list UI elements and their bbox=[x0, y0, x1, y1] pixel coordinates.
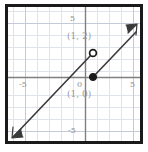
x-tick-negative-5: -5 bbox=[19, 80, 27, 89]
y-tick-negative-5: -5 bbox=[68, 126, 76, 135]
origin-label: 0 bbox=[77, 80, 82, 89]
y-tick-positive-5: 5 bbox=[70, 14, 75, 23]
closed-point-marker bbox=[89, 73, 96, 80]
ray-upper-right bbox=[93, 32, 136, 77]
open-point-label: (1, 2) bbox=[67, 31, 91, 41]
plot-frame: 5 -5 -5 5 0 (1, 2) (1, 0) bbox=[5, 4, 143, 144]
arrow-lower-left bbox=[12, 127, 23, 138]
closed-point-label: (1, 0) bbox=[67, 89, 91, 99]
coordinate-plane-figure: 5 -5 -5 5 0 (1, 2) (1, 0) bbox=[0, 0, 148, 152]
graph-curves bbox=[8, 7, 140, 141]
open-point-marker bbox=[90, 50, 97, 57]
x-tick-positive-5: 5 bbox=[130, 80, 135, 89]
